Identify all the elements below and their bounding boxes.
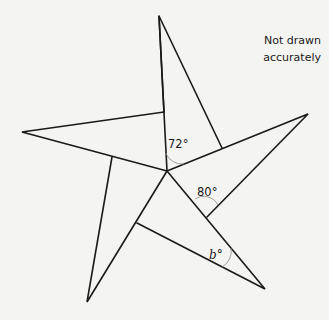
left-spoke <box>22 112 167 171</box>
arc-72 <box>166 153 184 164</box>
angle-label-72: 72° <box>168 137 188 151</box>
bottom-left-spoke <box>87 157 167 302</box>
angle-label-b: b° <box>209 248 223 262</box>
not-drawn-note: Not drawn accurately <box>263 32 321 66</box>
angle-label-80: 80° <box>197 185 217 199</box>
note-line-1: Not drawn <box>263 32 321 49</box>
arc-b <box>222 248 231 267</box>
top-spoke <box>159 16 222 148</box>
right-spoke <box>167 114 308 217</box>
note-line-2: accurately <box>263 49 321 66</box>
top-spoke-inner <box>159 16 167 171</box>
